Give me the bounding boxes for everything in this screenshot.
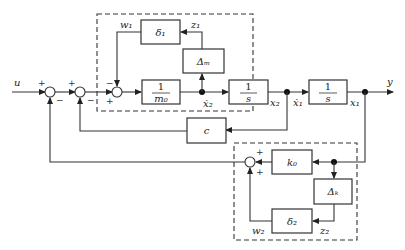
wire — [313, 204, 334, 221]
delta1-label: δ₁ — [155, 27, 165, 38]
inverse-mass-denominator: m₀ — [154, 93, 168, 104]
sum2-sign-bottom: − — [87, 95, 95, 105]
sum2-sign-top: + — [68, 78, 76, 88]
delta2-label: δ₂ — [287, 216, 297, 227]
integrator2-denominator: s — [325, 93, 330, 104]
sum1-sign-top: + — [38, 78, 46, 88]
input-label: u — [14, 77, 20, 88]
x1dot-label: ẋ₁ — [293, 97, 303, 108]
integrator2-numerator: 1 — [325, 81, 331, 92]
sum1-sign-bottom: − — [56, 95, 64, 105]
z2-label: z₂ — [319, 225, 329, 236]
w1-label: w₁ — [120, 19, 133, 30]
damping-label: c — [204, 125, 210, 136]
x1-label: x₁ — [350, 97, 360, 108]
summing-junction-2 — [75, 87, 85, 97]
wire — [117, 32, 141, 86]
x2-label: x₂ — [270, 97, 280, 108]
integrator1-denominator: s — [246, 93, 251, 104]
delta-k-label: Δₖ — [327, 186, 339, 197]
sum4-sign-bottom: + — [256, 167, 264, 177]
output-label: y — [386, 76, 393, 87]
sum3-sign-top: − — [106, 78, 114, 88]
summing-junction-4 — [245, 157, 255, 167]
x2dot-label: ẋ₂ — [203, 98, 213, 109]
wire — [181, 32, 202, 49]
integrator1-numerator: 1 — [245, 81, 251, 92]
sum3-sign-bottom: + — [106, 96, 114, 106]
sum4-sign-top: + — [256, 147, 264, 157]
block-diagram: u + − + − − + 1 m₀ ẋ₂ Δₘ z₁ δ₁ w₁ 1 s x₂… — [0, 0, 405, 250]
w2-label: w₂ — [252, 225, 265, 236]
delta-m-label: Δₘ — [196, 56, 210, 67]
z1-label: z₁ — [190, 19, 200, 30]
inverse-mass-numerator: 1 — [158, 81, 164, 92]
summing-junction-1 — [45, 87, 55, 97]
k0-label: k₀ — [287, 157, 297, 168]
